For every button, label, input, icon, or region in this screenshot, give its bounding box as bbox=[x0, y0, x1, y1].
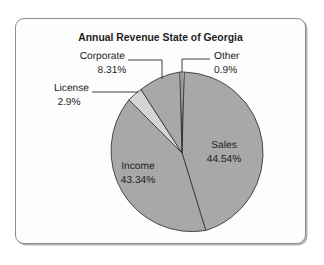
slice-label-sales: Sales bbox=[211, 140, 236, 151]
slice-value-other: 0.9% bbox=[214, 65, 237, 76]
slice-value-corporate: 8.31% bbox=[98, 65, 127, 76]
slice-value-license: 2.9% bbox=[57, 97, 80, 108]
slice-label-license: License bbox=[54, 83, 89, 94]
leader-line-other bbox=[182, 59, 210, 72]
chart-frame: Annual Revenue State of Georgia Cor bbox=[15, 18, 306, 244]
screenshot-canvas: Annual Revenue State of Georgia Cor bbox=[0, 0, 324, 265]
pie-chart: Annual Revenue State of Georgia Cor bbox=[16, 19, 305, 243]
leader-line-corporate bbox=[128, 60, 162, 79]
slice-label-other: Other bbox=[214, 51, 240, 62]
slice-value-sales: 44.54% bbox=[207, 154, 242, 165]
slice-label-income: Income bbox=[121, 161, 155, 172]
slice-value-income: 43.34% bbox=[121, 175, 156, 186]
slice-label-corporate: Corporate bbox=[80, 51, 126, 62]
chart-title: Annual Revenue State of Georgia bbox=[78, 32, 243, 43]
